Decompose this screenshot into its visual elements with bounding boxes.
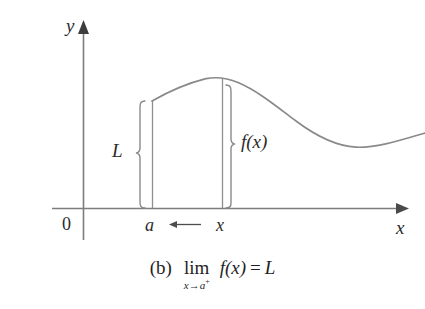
x-axis-arrowhead bbox=[396, 203, 409, 214]
limit-figure: y x 0 a x L f(x) (b) lim x→a+ f(x) = L bbox=[0, 0, 425, 309]
brace-label-L: L bbox=[112, 141, 123, 160]
limit-block: lim x→a+ bbox=[184, 258, 210, 291]
limit-operator: lim bbox=[184, 258, 209, 277]
x-axis-label: x bbox=[396, 218, 404, 237]
caption-limit-value: L bbox=[265, 258, 276, 277]
caption-part-label: (b) bbox=[150, 258, 172, 277]
brace-fx bbox=[226, 85, 235, 208]
limit-subscript-sign: + bbox=[205, 277, 210, 286]
brace-label-fx: f(x) bbox=[241, 132, 267, 151]
origin-label: 0 bbox=[62, 215, 71, 233]
tick-label-x: x bbox=[216, 216, 224, 234]
approach-arrow-head bbox=[169, 221, 177, 228]
caption-row: (b) lim x→a+ f(x) = L bbox=[150, 258, 276, 291]
limit-subscript-arrow-icon: → bbox=[189, 279, 200, 291]
y-axis-label: y bbox=[66, 16, 74, 35]
figure-caption: (b) lim x→a+ f(x) = L bbox=[0, 258, 425, 291]
caption-function-expr: f(x) bbox=[220, 258, 246, 277]
approach-arrow-icon bbox=[169, 221, 201, 228]
tick-label-a: a bbox=[145, 216, 154, 234]
function-curve bbox=[152, 78, 425, 147]
caption-equals: = bbox=[250, 258, 261, 277]
limit-subscript: x→a+ bbox=[184, 278, 210, 291]
y-axis bbox=[78, 20, 89, 240]
brace-L bbox=[137, 101, 146, 208]
y-axis-arrowhead bbox=[78, 20, 89, 34]
